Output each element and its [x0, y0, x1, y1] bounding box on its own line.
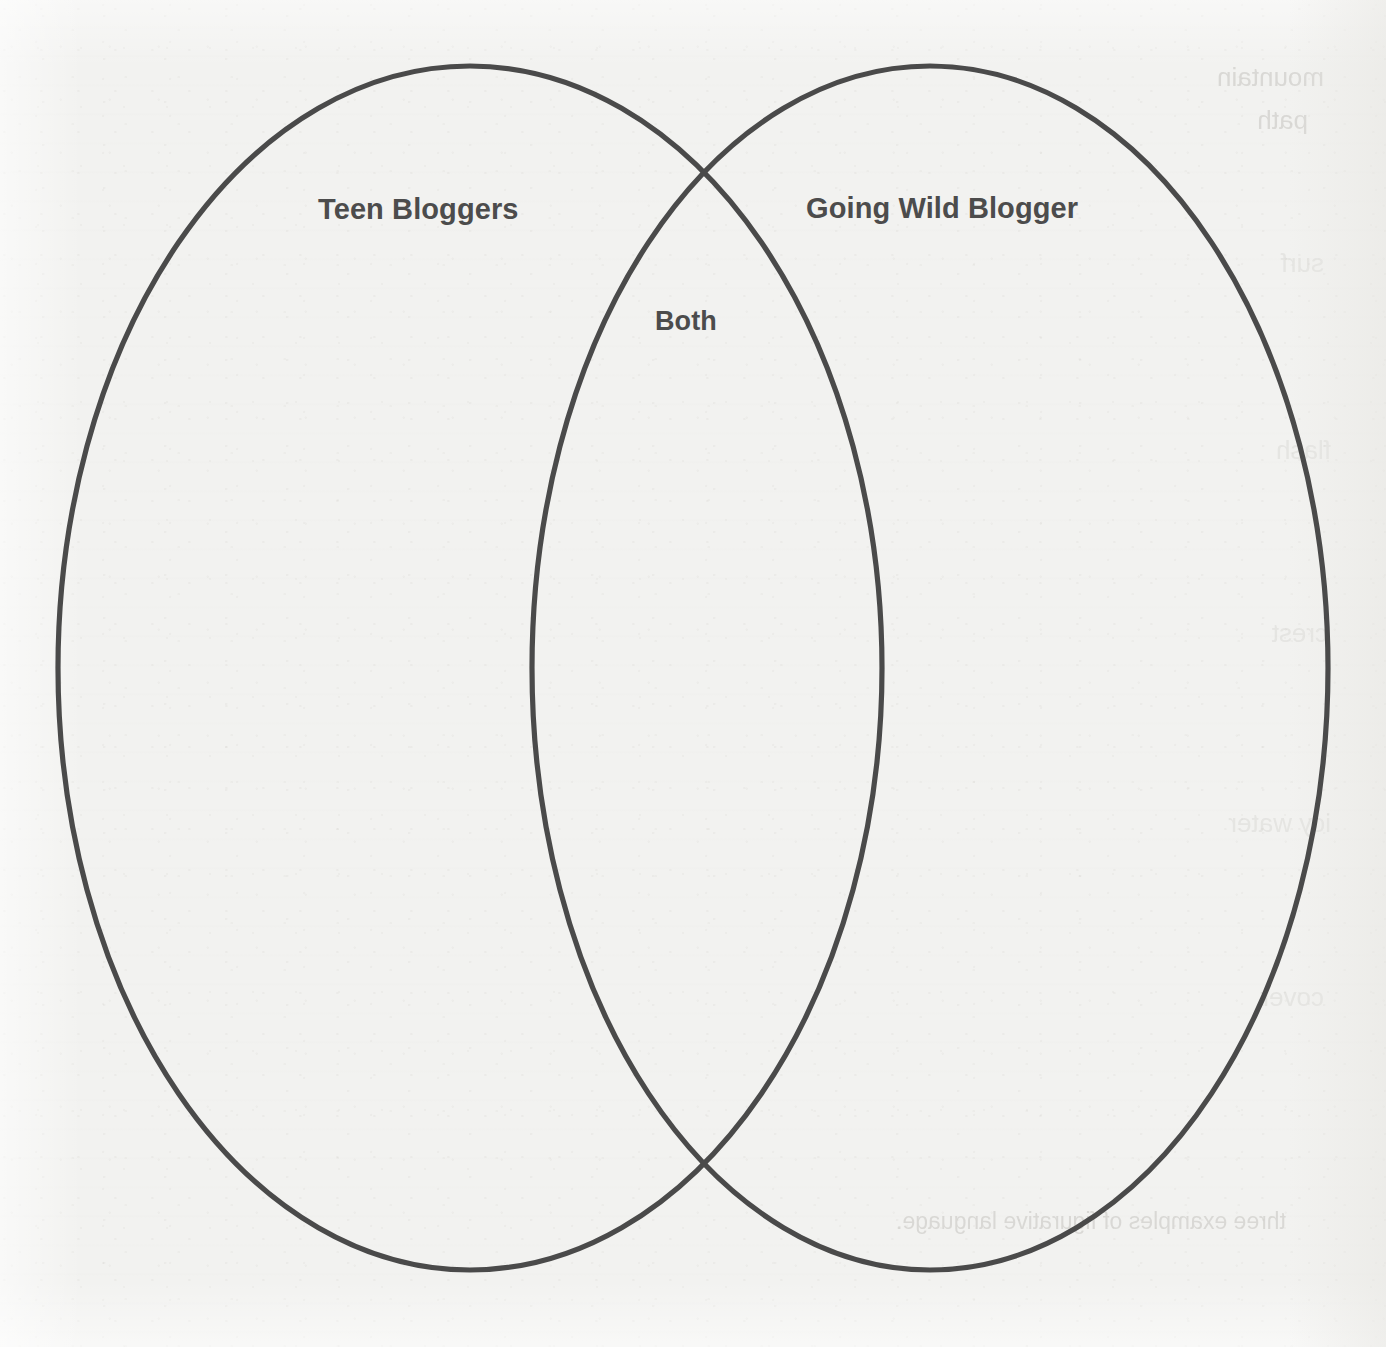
venn-label-left: Teen Bloggers — [318, 193, 519, 226]
venn-diagram-shapes — [0, 0, 1386, 1347]
venn-label-right: Going Wild Blogger — [806, 192, 1078, 225]
venn-label-overlap: Both — [655, 306, 717, 337]
venn-diagram-worksheet: mountain path surf flash crest icy water… — [0, 0, 1386, 1347]
venn-circle-right — [532, 66, 1328, 1270]
venn-circle-left — [58, 66, 882, 1270]
